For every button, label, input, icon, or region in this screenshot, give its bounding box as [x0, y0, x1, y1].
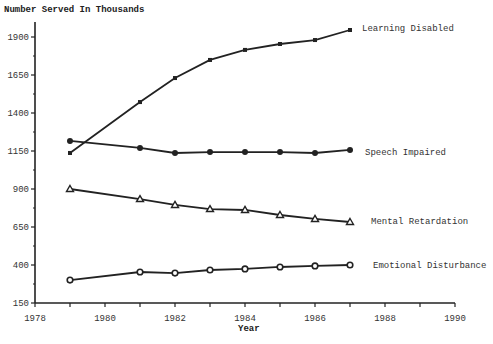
- data-point: [207, 149, 213, 155]
- data-point: [137, 145, 143, 151]
- data-point: [207, 267, 213, 273]
- series-label-speech-impaired: Speech Impaired: [365, 148, 446, 158]
- data-point: [67, 186, 74, 192]
- data-point: [68, 151, 72, 155]
- series-emotional-disturbance: [67, 262, 353, 283]
- series-learning-disabled: [68, 28, 352, 155]
- x-tick-label: 1986: [304, 314, 326, 324]
- x-tick-label: 1978: [24, 314, 46, 324]
- data-point: [348, 28, 352, 32]
- data-point: [277, 149, 283, 155]
- series-label-learning-disabled: Learning Disabled: [362, 24, 454, 34]
- data-point: [137, 196, 144, 202]
- data-point: [312, 215, 319, 221]
- series-speech-impaired: [67, 138, 353, 156]
- data-point: [208, 58, 212, 62]
- data-point: [312, 150, 318, 156]
- data-point: [172, 270, 178, 276]
- data-point: [347, 218, 354, 224]
- data-point: [67, 138, 73, 144]
- data-point: [173, 76, 177, 80]
- x-tick-label: 1988: [374, 314, 396, 324]
- data-point: [242, 206, 249, 212]
- y-tick-label: 1650: [7, 71, 29, 81]
- data-point: [172, 201, 179, 207]
- y-tick-label: 400: [13, 261, 29, 271]
- x-tick-label: 1982: [164, 314, 186, 324]
- data-point: [347, 147, 353, 153]
- series-label-emotional-disturbance: Emotional Disturbance: [373, 261, 486, 271]
- series-mental-retardation: [67, 186, 354, 225]
- x-tick-label: 1980: [94, 314, 116, 324]
- data-point: [278, 42, 282, 46]
- data-point: [277, 211, 284, 217]
- y-tick-label: 650: [13, 223, 29, 233]
- data-point: [172, 150, 178, 156]
- y-tick-label: 1900: [7, 33, 29, 43]
- data-point: [243, 48, 247, 52]
- data-point: [312, 263, 318, 269]
- data-point: [138, 100, 142, 104]
- data-point: [137, 269, 143, 275]
- data-point: [277, 264, 283, 270]
- data-point: [242, 266, 248, 272]
- line-chart: 1504006509001150140016501900197819801982…: [0, 0, 493, 344]
- series-label-mental-retardation: Mental Retardation: [371, 217, 468, 227]
- x-tick-label: 1990: [444, 314, 466, 324]
- data-point: [313, 38, 317, 42]
- y-tick-label: 1150: [7, 147, 29, 157]
- x-tick-label: 1984: [234, 314, 256, 324]
- y-tick-label: 900: [13, 185, 29, 195]
- y-tick-label: 1400: [7, 109, 29, 119]
- data-point: [207, 206, 214, 212]
- data-point: [242, 149, 248, 155]
- data-point: [67, 277, 73, 283]
- data-point: [347, 262, 353, 268]
- y-tick-label: 150: [13, 299, 29, 309]
